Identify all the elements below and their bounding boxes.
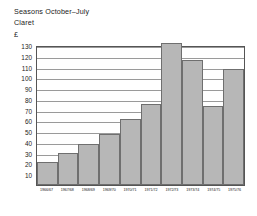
x-axis-tick-1967-68: 1967/68 <box>57 188 78 192</box>
x-axis-tick-1968-69: 1968/69 <box>78 188 99 192</box>
y-axis-tick-20: 20 <box>25 161 32 168</box>
bar-1972-73[interactable] <box>161 43 182 185</box>
y-axis-tick-120: 120 <box>21 53 32 60</box>
bar-1966-67[interactable] <box>37 162 58 185</box>
y-axis-tick-80: 80 <box>25 96 32 103</box>
y-axis-tick-100: 100 <box>21 75 32 82</box>
x-axis-tick-1973-74: 1973/74 <box>182 188 203 192</box>
y-axis-tick-30: 30 <box>25 150 32 157</box>
bar-slot <box>37 47 58 185</box>
bar-1967-68[interactable] <box>58 153 79 185</box>
bar-slot <box>223 47 244 185</box>
bar-1969-70[interactable] <box>99 134 120 185</box>
x-axis-tick-1969-70: 1969/70 <box>99 188 120 192</box>
y-axis-tick-90: 90 <box>25 86 32 93</box>
bar-1971-72[interactable] <box>141 104 162 185</box>
chart-figure: Seasons October–July Claret £ 1301201101… <box>0 0 257 216</box>
y-axis-tick-50: 50 <box>25 129 32 136</box>
y-axis-tick-40: 40 <box>25 139 32 146</box>
y-axis-tick-70: 70 <box>25 107 32 114</box>
x-axis-tick-1971-72: 1971/72 <box>141 188 162 192</box>
x-axis-tick-labels: 1966/671967/681968/691969/701970/711971/… <box>36 188 245 192</box>
bar-1975-76[interactable] <box>223 69 244 185</box>
chart-title-block: Seasons October–July Claret <box>14 6 89 28</box>
x-axis-tick-1966-67: 1966/67 <box>36 188 57 192</box>
bar-slot <box>78 47 99 185</box>
x-axis-tick-1972-73: 1972/73 <box>161 188 182 192</box>
y-axis-tick-labels: 130120110100908070605040302010 <box>0 46 32 186</box>
y-axis-unit-label: £ <box>14 30 18 39</box>
bar-1968-69[interactable] <box>78 144 99 185</box>
x-axis-tick-1975-76: 1975/76 <box>224 188 245 192</box>
y-axis-tick-10: 10 <box>25 172 32 179</box>
bar-slot <box>182 47 203 185</box>
bar-slot <box>120 47 141 185</box>
bar-1970-71[interactable] <box>120 119 141 185</box>
bar-slot <box>203 47 224 185</box>
x-axis-tick-1970-71: 1970/71 <box>120 188 141 192</box>
y-axis-tick-130: 130 <box>21 43 32 50</box>
bar-1973-74[interactable] <box>182 60 203 185</box>
bar-slot <box>141 47 162 185</box>
bar-1974-75[interactable] <box>203 106 224 185</box>
bar-slot <box>161 47 182 185</box>
bar-slot <box>58 47 79 185</box>
y-axis-tick-60: 60 <box>25 118 32 125</box>
chart-subtitle: Claret <box>14 17 89 28</box>
plot-area <box>36 46 245 186</box>
y-axis-tick-110: 110 <box>22 64 32 71</box>
bar-series <box>37 47 244 185</box>
bar-slot <box>99 47 120 185</box>
x-axis-tick-1974-75: 1974/75 <box>203 188 224 192</box>
chart-title: Seasons October–July <box>14 6 89 17</box>
